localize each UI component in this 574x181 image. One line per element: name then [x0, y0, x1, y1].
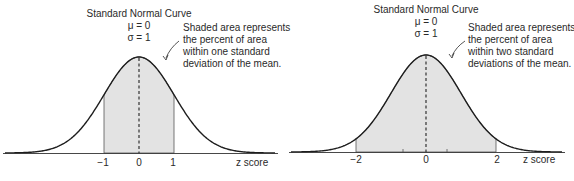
sigma-label: σ = 1 [414, 28, 438, 39]
sigma-label: σ = 1 [127, 32, 151, 43]
tick-label-0: 0 [136, 157, 142, 168]
tick-label-neg2: −2 [350, 154, 362, 165]
tick-label-2: 2 [494, 154, 500, 165]
mu-label: μ = 0 [128, 20, 151, 31]
annotation-line-2: the percent of area [468, 34, 552, 45]
mu-label: μ = 0 [415, 16, 438, 27]
annotation-line-4: deviations of the mean. [468, 58, 571, 69]
tick-label-1: 1 [170, 157, 176, 168]
tick-label-0: 0 [423, 154, 429, 165]
chart-title: Standard Normal Curve [373, 4, 478, 15]
chart-two-sd: Standard Normal Curve μ = 0 σ = 1 Shaded… [289, 4, 574, 165]
annotation-line-1: Shaded area represents [468, 22, 574, 33]
annotation-line-2: the percent of area [183, 34, 267, 45]
tick-label-neg1: −1 [97, 157, 109, 168]
annotation-line-4: deviation of the mean. [183, 58, 281, 69]
chart-one-sd: Standard Normal Curve μ = 0 σ = 1 Shaded… [3, 8, 290, 168]
x-axis-label: z score [236, 157, 269, 168]
normal-curves-figure: Standard Normal Curve μ = 0 σ = 1 Shaded… [0, 0, 574, 181]
annotation-line-3: within one standard [182, 46, 270, 57]
x-axis-label: z score [523, 154, 556, 165]
chart-title: Standard Normal Curve [86, 8, 191, 19]
annotation-line-3: within two standard [467, 46, 554, 57]
annotation-line-1: Shaded area represents [183, 22, 290, 33]
